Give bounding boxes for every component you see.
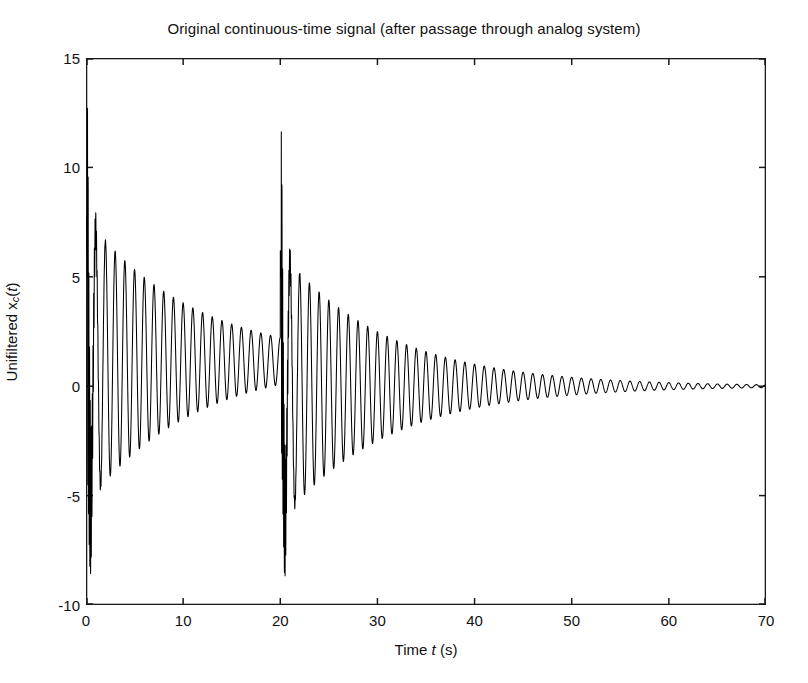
x-axis-label-suffix: (s) bbox=[436, 641, 458, 658]
y-axis-label-prefix: Unifiltered x bbox=[3, 302, 20, 381]
y-axis-label-container: Unifiltered xc(t) bbox=[0, 58, 24, 605]
plot-svg bbox=[86, 58, 766, 605]
axes-box bbox=[87, 59, 766, 605]
y-axis-tick-labels: 151050-5-10 bbox=[22, 58, 80, 605]
plot-area bbox=[86, 58, 766, 605]
x-tick-label: 10 bbox=[153, 612, 213, 629]
x-axis-label-prefix: Time bbox=[395, 641, 432, 658]
y-axis-label: Unifiltered xc(t) bbox=[3, 282, 21, 381]
y-axis-label-paren-open: ( bbox=[3, 291, 20, 296]
y-tick-label: 5 bbox=[28, 268, 80, 285]
x-tick-label: 40 bbox=[445, 612, 505, 629]
x-tick-label: 30 bbox=[347, 612, 407, 629]
x-tick-label: 20 bbox=[250, 612, 310, 629]
x-tick-label: 60 bbox=[639, 612, 699, 629]
y-tick-label: -10 bbox=[28, 597, 80, 614]
page-title: Original continuous-time signal (after p… bbox=[0, 20, 808, 37]
y-tick-label: 15 bbox=[28, 50, 80, 67]
y-axis-label-subscript: c bbox=[9, 296, 21, 302]
x-axis-label: Time t (s) bbox=[86, 641, 766, 658]
x-tick-label: 0 bbox=[56, 612, 116, 629]
x-tick-label: 50 bbox=[542, 612, 602, 629]
plot-frame bbox=[87, 59, 766, 605]
y-axis-label-paren-close: ) bbox=[3, 282, 20, 287]
x-axis-tick-labels: 010203040506070 bbox=[86, 612, 766, 634]
x-tick-label: 70 bbox=[736, 612, 796, 629]
y-tick-label: 0 bbox=[28, 378, 80, 395]
y-tick-label: -5 bbox=[28, 487, 80, 504]
y-tick-label: 10 bbox=[28, 159, 80, 176]
y-axis-label-var: t bbox=[3, 287, 20, 291]
figure-container: Original continuous-time signal (after p… bbox=[0, 0, 808, 683]
